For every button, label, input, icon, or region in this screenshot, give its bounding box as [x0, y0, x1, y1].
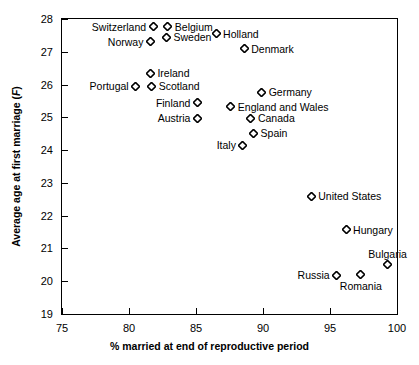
data-point-marker [307, 192, 316, 201]
data-point-label: Holland [223, 29, 259, 40]
data-point-marker [238, 141, 247, 150]
data-point-label: United States [318, 191, 381, 202]
data-point-marker [212, 29, 221, 38]
data-point-label: Switzerland [92, 22, 146, 33]
data-point-marker [249, 129, 258, 138]
data-point-label: Ireland [157, 68, 189, 79]
data-point-marker [193, 98, 202, 107]
data-point-label: Denmark [251, 43, 294, 54]
x-axis-tick-label: 90 [257, 323, 269, 334]
data-point-marker [342, 225, 351, 234]
x-axis-tick-label: 80 [123, 323, 135, 334]
y-axis-title-text: Average age at first marriage (F) [10, 86, 22, 247]
x-axis-tick [330, 308, 331, 314]
y-axis-title: Average age at first marriage (F) [8, 18, 24, 315]
x-axis-tick [129, 308, 130, 314]
data-point-marker [131, 82, 140, 91]
y-axis-tick-label: 28 [41, 14, 53, 25]
data-point-marker [257, 88, 266, 97]
x-axis-tick-label: 85 [190, 323, 202, 334]
data-point-marker [162, 33, 171, 42]
y-axis-tick-label: 27 [41, 46, 53, 57]
data-point-marker [163, 22, 172, 31]
data-point-marker [146, 69, 155, 78]
y-axis-tick [62, 216, 68, 217]
data-point-marker [226, 102, 235, 111]
y-axis-tick-label: 26 [41, 79, 53, 90]
x-axis-tick [62, 308, 63, 314]
y-axis-tick [62, 85, 68, 86]
x-axis-tick [397, 308, 398, 314]
y-axis-tick-label: 20 [41, 276, 53, 287]
data-point-label: England and Wales [238, 101, 329, 112]
y-axis-tick-label: 22 [41, 210, 53, 221]
data-point-label: Scotland [159, 81, 200, 92]
y-axis-tick [62, 183, 68, 184]
y-axis-tick [62, 248, 68, 249]
x-axis-tick [263, 308, 264, 314]
data-point-marker [383, 260, 392, 269]
y-axis-tick-label: 23 [41, 177, 53, 188]
data-point-label: Canada [258, 113, 295, 124]
y-axis-tick [62, 314, 68, 315]
y-axis-tick-label: 21 [41, 243, 53, 254]
x-axis-tick-label: 95 [324, 323, 336, 334]
data-point-marker [240, 44, 249, 53]
data-point-marker [146, 37, 155, 46]
data-point-label: Austria [158, 113, 191, 124]
x-axis-tick [196, 308, 197, 314]
data-point-label: Portugal [90, 81, 129, 92]
x-axis-tick-label: 100 [388, 323, 406, 334]
data-point-label: Germany [269, 87, 312, 98]
data-point-label: Russia [298, 270, 330, 281]
data-point-label: Italy [217, 140, 236, 151]
x-axis-title: % married at end of reproductive period [0, 341, 419, 352]
y-axis-tick [62, 150, 68, 151]
y-axis-tick [62, 117, 68, 118]
data-point-label: Hungary [353, 225, 393, 236]
data-point-label: Romania [340, 281, 382, 292]
data-point-marker [147, 82, 156, 91]
y-axis-tick-label: 24 [41, 145, 53, 156]
scatter-plot-figure: 192021222324252627287580859095100Switzer… [0, 0, 419, 365]
y-axis-tick-label: 19 [41, 309, 53, 320]
x-axis-tick-label: 75 [56, 323, 68, 334]
data-point-marker [246, 114, 255, 123]
plot-area: 192021222324252627287580859095100Switzer… [61, 18, 398, 315]
data-point-label: Spain [261, 128, 288, 139]
data-point-label: Sweden [174, 32, 212, 43]
data-point-marker [149, 22, 158, 31]
data-point-label: Bulgaria [368, 248, 407, 259]
data-point-marker [332, 271, 341, 280]
y-axis-tick [62, 19, 68, 20]
data-point-label: Norway [108, 37, 144, 48]
data-point-marker [193, 114, 202, 123]
data-point-label: Finland [156, 97, 190, 108]
y-axis-tick [62, 52, 68, 53]
data-point-marker [356, 270, 365, 279]
y-axis-tick [62, 281, 68, 282]
y-axis-tick-label: 25 [41, 112, 53, 123]
